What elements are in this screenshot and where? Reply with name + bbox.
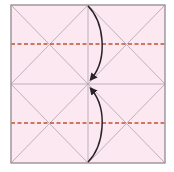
origami-diagram <box>0 0 174 172</box>
diagram-canvas <box>0 0 174 172</box>
crease-lines <box>11 5 165 163</box>
